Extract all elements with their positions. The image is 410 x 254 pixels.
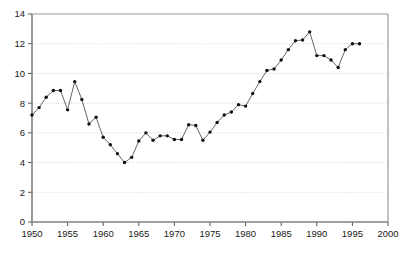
data-point <box>30 113 33 116</box>
y-tick-label-2: 2 <box>20 187 25 198</box>
x-tick-label-1970: 1970 <box>164 228 185 239</box>
data-point <box>287 48 290 51</box>
x-axis-labels: 1950195519601965197019751980198519901995… <box>21 228 398 239</box>
data-point <box>144 131 147 134</box>
x-tick-label-1950: 1950 <box>21 228 42 239</box>
x-tick-label-1975: 1975 <box>199 228 220 239</box>
data-point <box>94 116 97 119</box>
data-point <box>208 130 211 133</box>
data-point <box>294 39 297 42</box>
data-point <box>80 98 83 101</box>
data-point <box>173 138 176 141</box>
y-tick-label-0: 0 <box>20 216 25 227</box>
data-point <box>329 58 332 61</box>
data-point <box>258 80 261 83</box>
data-point <box>301 38 304 41</box>
y-tick-label-12: 12 <box>14 38 25 49</box>
data-point <box>358 42 361 45</box>
data-point <box>322 54 325 57</box>
data-point <box>151 139 154 142</box>
data-point <box>244 104 247 107</box>
x-tick-label-1955: 1955 <box>57 228 78 239</box>
y-tick-label-10: 10 <box>14 68 25 79</box>
data-point <box>230 110 233 113</box>
axis-lines <box>32 14 388 222</box>
data-point <box>265 69 268 72</box>
x-tick-label-2000: 2000 <box>377 228 398 239</box>
data-point <box>237 103 240 106</box>
x-tick-label-1980: 1980 <box>235 228 256 239</box>
y-axis-labels: 02468101214 <box>14 8 25 227</box>
x-tick-label-1985: 1985 <box>271 228 292 239</box>
data-point <box>308 30 311 33</box>
data-point <box>73 80 76 83</box>
data-point <box>37 106 40 109</box>
data-point <box>59 89 62 92</box>
x-tick-label-1995: 1995 <box>342 228 363 239</box>
data-point <box>158 134 161 137</box>
data-point <box>315 54 318 57</box>
data-point <box>215 121 218 124</box>
y-tick-label-8: 8 <box>20 98 25 109</box>
chart-canvas: 1950195519601965197019751980198519901995… <box>0 0 410 254</box>
data-point <box>66 108 69 111</box>
data-point <box>166 134 169 137</box>
data-point <box>116 152 119 155</box>
data-point <box>201 139 204 142</box>
data-point <box>102 136 105 139</box>
data-point <box>223 113 226 116</box>
y-tick-label-6: 6 <box>20 127 25 138</box>
data-point <box>272 67 275 70</box>
series-markers-1 <box>30 30 361 164</box>
x-tick-label-1990: 1990 <box>306 228 327 239</box>
data-point <box>336 66 339 69</box>
data-point <box>351 42 354 45</box>
line-chart: 1950195519601965197019751980198519901995… <box>0 0 410 254</box>
plot-frame <box>32 14 388 222</box>
data-point <box>344 48 347 51</box>
data-point <box>187 123 190 126</box>
data-point <box>109 143 112 146</box>
data-point <box>87 122 90 125</box>
data-point <box>130 156 133 159</box>
series-line-1 <box>32 32 360 163</box>
data-point <box>137 139 140 142</box>
x-tick-label-1965: 1965 <box>128 228 149 239</box>
data-point <box>45 96 48 99</box>
data-point <box>180 138 183 141</box>
data-point <box>251 92 254 95</box>
gridlines <box>32 44 388 193</box>
data-point <box>280 58 283 61</box>
y-tick-label-4: 4 <box>20 157 25 168</box>
y-tick-label-14: 14 <box>14 8 25 19</box>
x-tick-label-1960: 1960 <box>93 228 114 239</box>
data-point <box>123 161 126 164</box>
data-point <box>52 89 55 92</box>
data-point <box>194 124 197 127</box>
